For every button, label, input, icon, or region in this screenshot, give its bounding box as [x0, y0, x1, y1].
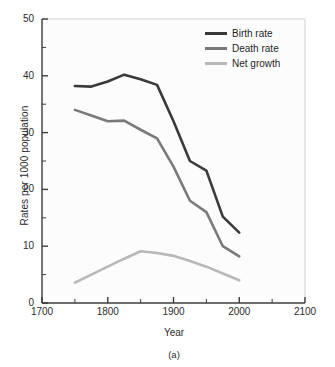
y-axis-label: Rates per 1000 population: [19, 56, 30, 276]
legend-item[interactable]: Birth rate: [205, 26, 315, 41]
x-tick-label: 2100: [285, 307, 325, 317]
legend-label: Birth rate: [232, 28, 273, 39]
x-tick-label: 1700: [22, 307, 62, 317]
chart-legend: Birth rateDeath rateNet growth: [205, 26, 315, 71]
legend-color-swatch-icon: [205, 47, 227, 50]
figure-panel: 01020304050 17001800190020002100 Rates p…: [0, 0, 335, 367]
legend-item[interactable]: Death rate: [205, 41, 315, 56]
x-axis-label: Year: [42, 327, 306, 338]
legend-label: Death rate: [232, 43, 279, 54]
x-tick-label: 2000: [219, 307, 259, 317]
legend-label: Net growth: [232, 58, 280, 69]
x-tick-label: 1800: [88, 307, 128, 317]
x-tick-label: 1900: [154, 307, 194, 317]
y-tick-label: 50: [8, 14, 34, 24]
figure-caption: (a): [42, 349, 306, 360]
legend-item[interactable]: Net growth: [205, 56, 315, 71]
legend-color-swatch-icon: [205, 32, 227, 35]
legend-color-swatch-icon: [205, 62, 227, 65]
